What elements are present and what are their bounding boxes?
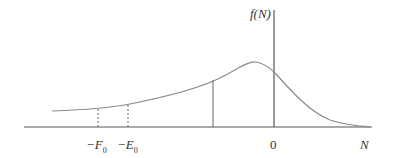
- y-axis-label: f(N): [250, 6, 271, 22]
- x-axis-label: N: [360, 137, 369, 153]
- marker-f0-label: −F0: [86, 137, 107, 155]
- distribution-curve: [52, 62, 370, 127]
- marker-e0-label: −E0: [117, 137, 138, 155]
- origin-label: 0: [270, 137, 277, 153]
- distribution-diagram: [0, 0, 395, 158]
